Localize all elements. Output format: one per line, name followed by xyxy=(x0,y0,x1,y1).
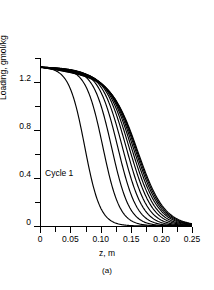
curve-4 xyxy=(40,67,192,226)
y-tick xyxy=(35,106,40,107)
x-tick-label: 0.15 xyxy=(123,235,140,244)
x-tick-label: 0 xyxy=(38,235,43,244)
curves-group xyxy=(40,58,192,226)
figure-panel: 00.40.81.2 00.050.100.150.200.25 Loading… xyxy=(0,0,214,290)
x-tick-label: 0.10 xyxy=(93,235,110,244)
y-tick-label: 0 xyxy=(0,218,31,227)
x-tick xyxy=(86,227,87,232)
x-axis-title: z, m xyxy=(0,248,214,258)
curve-8 xyxy=(40,67,192,225)
x-tick xyxy=(55,227,56,232)
x-tick xyxy=(40,227,41,233)
y-tick xyxy=(34,178,40,179)
y-tick xyxy=(34,130,40,131)
curve-10 xyxy=(40,67,192,224)
x-tick xyxy=(131,227,132,233)
curve-1 xyxy=(40,68,192,226)
curve-5 xyxy=(40,67,192,226)
y-axis-title: Loading, gmol/kg xyxy=(0,35,8,100)
y-tick xyxy=(35,154,40,155)
cycle-1-annotation: Cycle 1 xyxy=(45,168,73,178)
curve-3 xyxy=(40,67,192,226)
curve-11 xyxy=(40,67,192,224)
y-axis-line xyxy=(40,58,41,226)
x-tick xyxy=(116,227,117,232)
figure-caption: (a) xyxy=(0,266,214,275)
x-tick xyxy=(162,227,163,233)
y-tick xyxy=(34,82,40,83)
x-tick xyxy=(101,227,102,233)
curve-12 xyxy=(40,67,192,224)
x-tick xyxy=(70,227,71,233)
y-tick xyxy=(35,58,40,59)
curve-6 xyxy=(40,67,192,226)
curve-9 xyxy=(40,67,192,225)
plot-area xyxy=(40,58,192,226)
x-tick-label: 0.20 xyxy=(153,235,170,244)
curve-2 xyxy=(40,67,192,226)
x-tick xyxy=(177,227,178,232)
x-tick-label: 0.05 xyxy=(62,235,79,244)
y-tick-label: 0.4 xyxy=(0,170,31,179)
y-tick xyxy=(35,202,40,203)
y-tick-label: 0.8 xyxy=(0,122,31,131)
curve-7 xyxy=(40,67,192,225)
x-tick xyxy=(192,227,193,233)
x-tick xyxy=(146,227,147,232)
x-tick-label: 0.25 xyxy=(184,235,201,244)
